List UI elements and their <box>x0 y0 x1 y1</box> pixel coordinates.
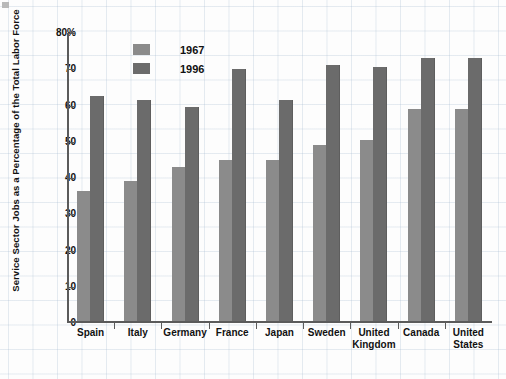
legend-label-1996: 1996 <box>180 63 204 75</box>
bar-1996 <box>326 65 340 321</box>
bar-1996 <box>185 107 199 321</box>
bar-1996 <box>90 96 104 321</box>
bar-group <box>360 31 387 321</box>
bar-1996 <box>468 58 482 321</box>
bar-1967 <box>77 191 91 322</box>
bar-group <box>455 31 482 321</box>
legend-label-1967: 1967 <box>180 44 204 56</box>
bar-1967 <box>408 109 422 321</box>
bar-1996 <box>137 100 151 321</box>
legend-swatch-1996 <box>133 63 150 74</box>
bar-1967 <box>219 160 233 321</box>
bar-1996 <box>421 58 435 321</box>
x-axis-label: UnitedStates <box>432 327 504 351</box>
chart-legend: 1967 1996 <box>133 40 204 78</box>
bar-1967 <box>172 167 186 321</box>
bar-1967 <box>313 145 327 321</box>
bar-1967 <box>266 160 280 321</box>
bar-group <box>266 31 293 321</box>
bar-1996 <box>232 69 246 321</box>
bar-chart: Service Sector Jobs as a Percentage of t… <box>0 0 506 379</box>
bar-group <box>313 31 340 321</box>
legend-item-1967: 1967 <box>133 40 204 59</box>
bar-group <box>219 31 246 321</box>
legend-swatch-1967 <box>133 44 150 55</box>
bar-1996 <box>279 100 293 321</box>
plot-area <box>67 33 492 323</box>
bar-1996 <box>373 67 387 321</box>
bar-group <box>77 31 104 321</box>
bar-group <box>408 31 435 321</box>
bar-1967 <box>360 140 374 321</box>
bar-1967 <box>124 181 138 321</box>
bar-1967 <box>455 109 469 321</box>
y-axis-title: Service Sector Jobs as a Percentage of t… <box>10 0 21 361</box>
legend-item-1996: 1996 <box>133 59 204 78</box>
